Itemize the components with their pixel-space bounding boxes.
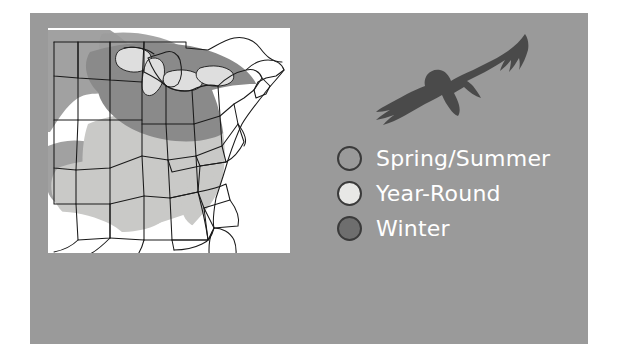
legend-item-year-round[interactable]: Year-Round (337, 176, 587, 211)
legend-item-spring-summer[interactable]: Spring/Summer (337, 141, 587, 176)
legend-label-spring-summer: Spring/Summer (376, 148, 550, 170)
legend-swatch-year-round (337, 181, 362, 206)
range-map-figure: Spring/Summer Year-Round Winter (0, 0, 618, 358)
legend-label-winter: Winter (376, 218, 450, 240)
legend-label-year-round: Year-Round (376, 183, 501, 205)
range-legend: Spring/Summer Year-Round Winter (337, 141, 587, 246)
range-map-card (48, 28, 290, 253)
eagle-icon (375, 30, 530, 130)
figure-panel: Spring/Summer Year-Round Winter (30, 13, 588, 344)
us-range-map-svg (48, 28, 290, 253)
legend-swatch-winter (337, 216, 362, 241)
legend-item-winter[interactable]: Winter (337, 211, 587, 246)
eagle-silhouette-wrap (375, 30, 530, 130)
legend-swatch-spring-summer (337, 146, 362, 171)
